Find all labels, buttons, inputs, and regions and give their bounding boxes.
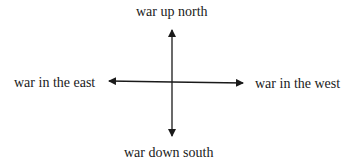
- label-north: war up north: [136, 5, 208, 19]
- label-west: war in the west: [255, 77, 340, 91]
- horizontal-arrow-left: [109, 81, 172, 82]
- label-south: war down south: [124, 146, 213, 160]
- label-east: war in the east: [14, 76, 95, 90]
- horizontal-arrow-right: [172, 82, 243, 83]
